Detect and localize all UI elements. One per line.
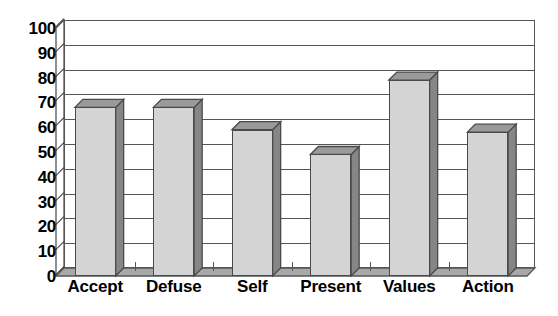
x-axis: AcceptDefuseSelfPresentValuesAction [0,272,558,300]
x-axis-tick-label: Self [237,278,267,295]
bar-side-face [508,124,516,276]
x-axis-tickmark [292,262,293,271]
x-axis-tickmark [135,262,136,271]
bar-top-face [467,124,516,132]
x-axis-tick-label: Present [300,278,361,295]
bar-chart: 0102030405060708090100 AcceptDefuseSelfP… [0,0,558,316]
x-axis-tick-label: Action [462,278,514,295]
bar-front-face [467,132,508,276]
x-axis-tick-label: Accept [68,278,124,295]
x-axis-tick-label: Values [383,278,436,295]
x-axis-tickmark [213,262,214,271]
x-axis-tickmark [370,262,371,271]
x-axis-tick-label: Defuse [146,278,202,295]
x-axis-tickmark [449,262,450,271]
